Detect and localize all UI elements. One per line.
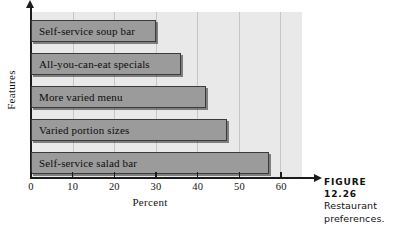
x-axis-tick	[30, 172, 31, 178]
bar-label: All-you-can-eat specials	[39, 58, 150, 70]
x-axis-tick	[239, 172, 240, 178]
figure-container: Self-service soup barAll-you-can-eat spe…	[0, 0, 397, 230]
y-axis-title: Features	[5, 55, 17, 125]
x-axis-tick	[72, 172, 73, 178]
x-axis-tick	[114, 172, 115, 178]
x-axis-tick	[155, 172, 156, 178]
x-axis-tick-label: 60	[266, 181, 296, 192]
gridline-60	[280, 12, 281, 178]
figure-caption-line-2: preferences.	[324, 213, 397, 226]
x-axis-tick	[280, 172, 281, 178]
bar-label: Self-service soup bar	[39, 25, 135, 37]
x-axis-title: Percent	[0, 196, 300, 208]
bar-label: More varied menu	[39, 91, 123, 103]
x-axis-tick-label: 20	[99, 181, 129, 192]
x-axis-tick-label: 50	[224, 181, 254, 192]
x-axis-tick-label: 0	[16, 181, 46, 192]
bar-label: Varied portion sizes	[39, 124, 129, 136]
y-axis-arrow-icon	[26, 0, 34, 8]
bar-label: Self-service salad bar	[39, 157, 137, 169]
figure-caption: FIGURE 12.26 Restaurant preferences.	[324, 176, 397, 225]
x-axis-tick-label: 40	[183, 181, 213, 192]
x-axis-tick-label: 10	[58, 181, 88, 192]
x-axis-tick-label: 30	[141, 181, 171, 192]
figure-caption-label: FIGURE 12.26	[324, 176, 397, 200]
figure-caption-line-1: Restaurant	[324, 200, 397, 213]
x-axis-arrow-icon	[314, 174, 322, 182]
x-axis-tick	[197, 172, 198, 178]
